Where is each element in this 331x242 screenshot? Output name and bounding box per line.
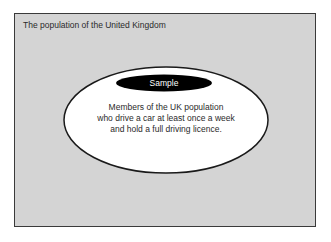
description-line: who drive a car at least once a week bbox=[86, 113, 246, 124]
description-line: Members of the UK population bbox=[86, 102, 246, 113]
description-line: and hold a full driving licence. bbox=[86, 124, 246, 135]
sample-description: Members of the UK population who drive a… bbox=[86, 102, 246, 135]
sample-label: Sample bbox=[116, 75, 212, 91]
